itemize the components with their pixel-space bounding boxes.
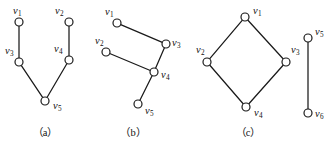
panel-caption-panel-c: （c）: [228, 128, 268, 139]
graph-vertex-node: [41, 97, 49, 105]
panel-caption-panel-a: （a）: [25, 128, 65, 139]
vertex-label-v1: v1: [253, 6, 261, 17]
graph-vertex-node: [282, 58, 290, 66]
graph-edge: [210, 65, 244, 104]
graph-vertex-node: [304, 109, 312, 117]
graph-vertex-node: [65, 56, 73, 64]
graph-vertex-node: [150, 68, 158, 76]
graph-vertex-node: [134, 100, 142, 108]
graph-edge: [21, 65, 43, 97]
graph-vertex-node: [304, 34, 312, 42]
graph-edge: [47, 63, 67, 97]
vertex-label-v3: v3: [291, 45, 299, 56]
graph-vertex-node: [242, 103, 250, 111]
graph-edge: [248, 20, 284, 59]
graph-vertex-node: [102, 48, 110, 56]
vertex-label-v1: v1: [13, 6, 21, 17]
graph-edge: [156, 48, 165, 69]
graph-edge: [121, 25, 163, 43]
vertex-label-v2: v2: [55, 6, 63, 17]
graph-vertex-node: [203, 58, 211, 66]
graph-edge: [140, 76, 152, 101]
vertex-label-v5: v5: [53, 101, 61, 112]
graph-vertex-node: [15, 58, 23, 66]
vertex-label-v2: v2: [196, 45, 204, 56]
vertex-label-v6: v6: [315, 109, 323, 120]
figure-graphs: v1v2v3v4v5（a）v1v2v3v4v5（b）v1v2v3v4v5v6（c…: [0, 0, 331, 148]
vertex-label-v4: v4: [161, 70, 169, 81]
vertex-label-v1: v1: [105, 7, 113, 18]
graph-vertex-node: [241, 13, 249, 21]
vertex-label-v3: v3: [172, 38, 180, 49]
vertex-label-v4: v4: [54, 44, 62, 55]
vertex-label-v2: v2: [95, 36, 103, 47]
graph-vertex-node: [113, 19, 121, 27]
vertex-label-v5: v5: [145, 106, 153, 117]
vertex-label-v3: v3: [5, 46, 13, 57]
graph-vertex-node: [65, 18, 73, 26]
graph-vertex-node: [15, 18, 23, 26]
edges-layer: [19, 20, 308, 109]
vertex-label-v5: v5: [315, 27, 323, 38]
panel-caption-panel-b: （b）: [113, 128, 153, 139]
graph-vertex-node: [162, 40, 170, 48]
graph-edge: [249, 65, 284, 104]
vertex-label-v4: v4: [254, 108, 262, 119]
graph-edge: [210, 20, 243, 59]
graph-edge: [110, 54, 151, 71]
